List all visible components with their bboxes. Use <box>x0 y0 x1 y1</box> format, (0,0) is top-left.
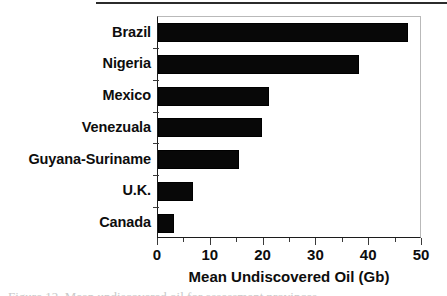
bar-row <box>158 207 420 239</box>
category-label-guyana-suriname: Guyana-Suriname <box>0 152 151 166</box>
page-rule-divider <box>96 2 447 4</box>
x-axis-tick-label: 50 <box>413 246 430 263</box>
bar-row <box>158 17 420 49</box>
bar-row <box>158 176 420 208</box>
x-axis-tick-major <box>157 238 158 245</box>
x-axis-tick-major <box>315 238 316 245</box>
bar-guyana-suriname <box>158 150 239 169</box>
x-axis-tick-label: 40 <box>360 246 377 263</box>
category-label-brazil: Brazil <box>0 25 151 39</box>
x-axis-tick-major <box>368 238 369 245</box>
x-axis-tick-minor <box>236 238 237 242</box>
x-axis-tick-minor <box>342 238 343 242</box>
bar-series <box>158 17 420 237</box>
x-axis-tick-major <box>421 238 422 245</box>
x-axis-tick-label: 0 <box>153 246 161 263</box>
x-axis-tick-minor <box>395 238 396 242</box>
bar-venezuala <box>158 118 262 137</box>
bar-canada <box>158 214 174 233</box>
x-axis-tick-label: 10 <box>201 246 218 263</box>
plot-area <box>157 16 421 238</box>
figure-caption-sliver: Figure 12. Mean undiscovered oil for ass… <box>8 289 438 296</box>
x-axis-tick-minor <box>183 238 184 242</box>
category-label-venezuala: Venezuala <box>0 120 151 134</box>
bar-brazil <box>158 23 408 42</box>
x-axis-tick-major <box>210 238 211 245</box>
bar-row <box>158 80 420 112</box>
bar-nigeria <box>158 55 359 74</box>
bar-row <box>158 49 420 81</box>
bar-mexico <box>158 87 269 106</box>
bar-uk <box>158 182 193 201</box>
x-axis-tick-label: 20 <box>254 246 271 263</box>
category-label-uk: U.K. <box>0 183 151 197</box>
category-label-canada: Canada <box>0 215 151 229</box>
x-axis-tick-label: 30 <box>307 246 324 263</box>
category-axis-labels: Brazil Nigeria Mexico Venezuala Guyana-S… <box>0 16 151 238</box>
bar-row <box>158 144 420 176</box>
x-axis-tick-major <box>263 238 264 245</box>
x-axis-tick-labels: 01020304050 <box>0 246 447 268</box>
category-label-mexico: Mexico <box>0 88 151 102</box>
category-label-nigeria: Nigeria <box>0 56 151 70</box>
x-axis-ticks <box>157 238 422 246</box>
x-axis-tick-minor <box>289 238 290 242</box>
figure-bar-chart: Brazil Nigeria Mexico Venezuala Guyana-S… <box>0 0 447 296</box>
x-axis-title: Mean Undiscovered Oil (Gb) <box>157 268 421 285</box>
bar-row <box>158 112 420 144</box>
